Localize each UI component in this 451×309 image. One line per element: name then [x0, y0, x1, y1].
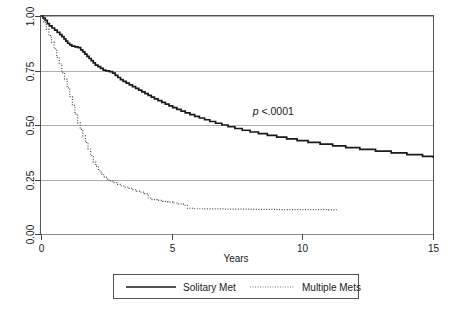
y-axis-tick-labels: 0.000.250.500.751.00 [25, 6, 36, 244]
p-value-number: <.0001 [259, 105, 294, 117]
y-tick-label-0.25: 0.25 [25, 170, 36, 190]
y-tick-label-0.50: 0.50 [25, 115, 36, 135]
legend-label-solitary-met: Solitary Met [183, 282, 236, 293]
kaplan-meier-figure: 0.000.250.500.751.00 051015 Years p <.00… [0, 0, 451, 309]
x-axis-title: Years [223, 253, 248, 264]
plot-frame [41, 16, 434, 235]
x-tick-label-15: 15 [428, 243, 440, 254]
legend: Solitary Met Multiple Mets [114, 275, 361, 299]
y-tick-label-0.75: 0.75 [25, 61, 36, 81]
legend-label-multiple-mets: Multiple Mets [302, 282, 361, 293]
gridlines [41, 17, 433, 235]
x-tick-label-5: 5 [170, 243, 176, 254]
y-tick-label-0.00: 0.00 [25, 224, 36, 244]
x-tick-label-0: 0 [39, 243, 45, 254]
survival-plot-svg: 0.000.250.500.751.00 051015 Years p <.00… [0, 0, 451, 309]
x-tick-label-10: 10 [297, 243, 309, 254]
curve-solitary-met [41, 16, 433, 158]
y-tick-label-1.00: 1.00 [25, 6, 36, 26]
p-value-annotation: p <.0001 [252, 105, 294, 117]
